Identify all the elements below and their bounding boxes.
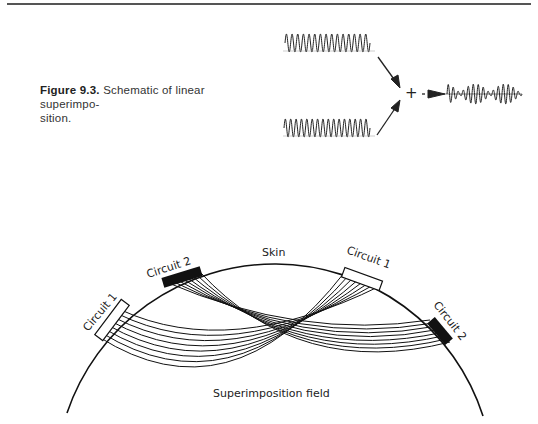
skin-diagram: Skin Circuit 1 Circuit 2 Circuit 1 Circu… [67, 244, 483, 416]
input-wave-2 [284, 119, 370, 137]
arrow-2 [377, 107, 396, 135]
figure-graphics: + Skin Circuit 1 Circuit 2 Circuit 1 Cir… [0, 0, 538, 424]
label-right-circuit-1: Circuit 1 [345, 244, 393, 272]
skin-label: Skin [262, 246, 285, 259]
superposition-schematic [283, 34, 522, 137]
input-wave-1 [285, 34, 370, 52]
field-label: Superimposition field [213, 387, 330, 400]
arrow-3 [428, 90, 445, 98]
plus-sign: + [405, 84, 418, 102]
